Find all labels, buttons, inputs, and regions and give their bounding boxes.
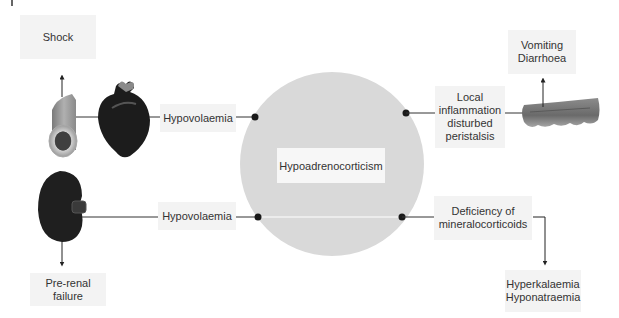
outcome-pre-renal-failure: Pre-renal failure <box>30 273 106 306</box>
heart-icon <box>98 81 150 157</box>
blood-vessel-icon <box>49 94 77 157</box>
outcome-shock: Shock <box>20 15 96 59</box>
center-label-hypoadrenocorticism: Hypoadrenocorticism <box>277 148 385 183</box>
kidney-icon <box>38 171 86 242</box>
connector-dot-left-top <box>252 114 259 121</box>
intestine-icon <box>522 98 600 127</box>
connector-dot-left-bottom <box>255 214 262 221</box>
cause-hypovolaemia-top: Hypovolaemia <box>160 104 236 132</box>
cause-hypovolaemia-bottom: Hypovolaemia <box>158 202 236 230</box>
cause-deficiency-mineralocorticoids: Deficiency of mineralocorticoids <box>434 196 532 240</box>
cause-local-inflammation: Local inflammation disturbed peristalsis <box>435 86 505 148</box>
outcome-hyperkalaemia-hyponatraemia: Hyperkalaemia Hyponatraemia <box>505 270 581 312</box>
outcome-vomiting-diarrhoea: Vomiting Diarrhoea <box>508 30 576 74</box>
